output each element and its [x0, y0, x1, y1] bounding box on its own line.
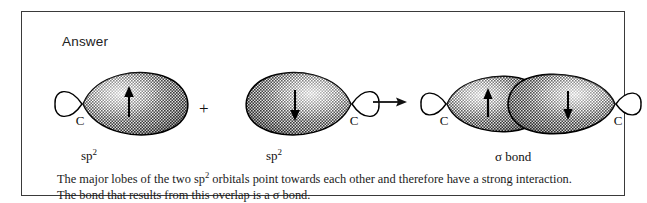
label-sp2-left-sup: 2 [93, 147, 98, 157]
atom-label-c: C [350, 113, 359, 128]
major-lobe-shading [246, 72, 351, 134]
caption-line-1-part1: The major lobes of the two sp [57, 172, 205, 186]
reaction-scheme: C + C [44, 62, 646, 170]
atom-label-c-right: C [614, 113, 623, 128]
screenshot-root: Answer C [0, 0, 647, 202]
orbital-right-svg: C [224, 62, 384, 146]
orbital-left-svg: C [50, 62, 210, 146]
caption-line-1-part2: orbitals point towards each other and th… [209, 172, 572, 186]
label-sp2-right-base: sp [266, 148, 278, 163]
atom-label-c-left: C [440, 113, 449, 128]
reaction-arrow [371, 92, 411, 116]
orbital-right: C [224, 62, 384, 146]
orbital-left: C [50, 62, 210, 146]
label-sp2-left: sp2 [81, 148, 97, 164]
answer-box: Answer C [21, 11, 625, 196]
label-sigma-bond: σ bond [495, 149, 531, 165]
major-lobe-right-shading [508, 74, 615, 134]
caption-line-2: The bond that results from this overlap … [57, 188, 637, 203]
atom-label-c: C [76, 113, 85, 128]
label-sp2-left-base: sp [81, 148, 93, 163]
caption-line-1: The major lobes of the two sp2 orbitals … [57, 172, 637, 188]
sigma-bond-svg: C C [416, 62, 646, 146]
label-sp2-right-sup: 2 [278, 147, 283, 157]
reaction-arrow-icon [371, 92, 411, 112]
sigma-bond-orbital: C C [416, 62, 646, 146]
major-lobe-shading [83, 72, 188, 134]
minor-lobe-left-icon [421, 93, 446, 115]
caption-text: The major lobes of the two sp2 orbitals … [57, 172, 637, 202]
minor-lobe-right-icon [616, 93, 641, 115]
answer-heading: Answer [62, 34, 108, 49]
plus-operator: + [199, 100, 209, 117]
label-sp2-right: sp2 [266, 148, 282, 164]
